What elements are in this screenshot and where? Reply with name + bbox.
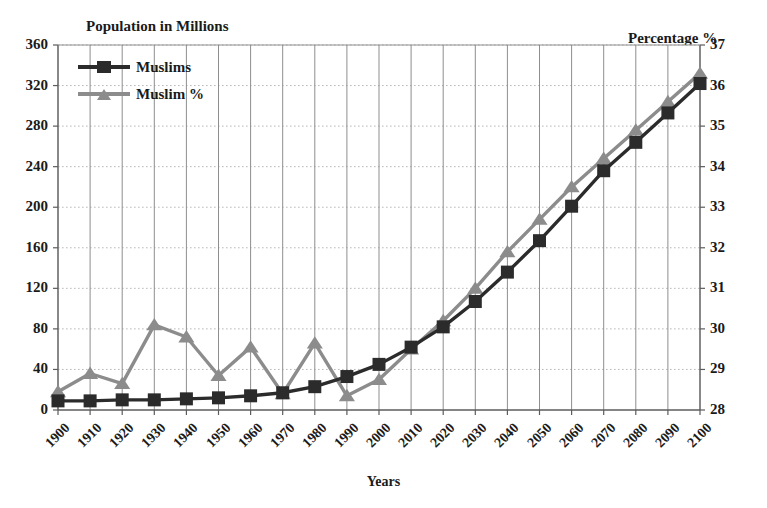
right-axis-tick-label: 33 bbox=[710, 199, 750, 214]
data-point-marker bbox=[565, 200, 578, 213]
chart-container: Population in Millions Percentage % 0408… bbox=[0, 0, 767, 508]
data-point-marker bbox=[212, 391, 225, 404]
legend-label: Muslims bbox=[136, 59, 191, 76]
data-point-marker bbox=[116, 393, 129, 406]
data-point-marker bbox=[629, 136, 642, 149]
data-point-marker bbox=[148, 393, 161, 406]
data-point-marker bbox=[308, 380, 321, 393]
left-axis-tick-label: 160 bbox=[8, 240, 48, 255]
right-axis-tick-label: 28 bbox=[710, 402, 750, 417]
right-axis-tick-label: 35 bbox=[710, 118, 750, 133]
x-axis-title: Years bbox=[0, 474, 767, 490]
data-point-marker bbox=[84, 394, 97, 407]
left-axis-tick-label: 240 bbox=[8, 159, 48, 174]
data-point-marker bbox=[340, 370, 353, 383]
left-axis-tick-label: 0 bbox=[8, 402, 48, 417]
data-point-marker bbox=[469, 295, 482, 308]
right-axis-tick-label: 36 bbox=[710, 78, 750, 93]
right-axis-tick-label: 30 bbox=[710, 321, 750, 336]
chart-legend: MuslimsMuslim % bbox=[78, 56, 210, 108]
left-axis-tick-label: 40 bbox=[8, 361, 48, 376]
data-point-marker bbox=[694, 77, 707, 90]
data-point-marker bbox=[405, 341, 418, 354]
left-axis-tick-label: 80 bbox=[8, 321, 48, 336]
data-point-marker bbox=[244, 389, 257, 402]
left-axis-tick-label: 320 bbox=[8, 78, 48, 93]
right-axis-tick-label: 37 bbox=[710, 37, 750, 52]
data-point-marker bbox=[373, 358, 386, 371]
legend-label: Muslim % bbox=[136, 86, 204, 103]
left-axis-tick-label: 120 bbox=[8, 280, 48, 295]
legend-square-marker-icon bbox=[78, 60, 130, 74]
data-point-marker bbox=[533, 234, 546, 247]
data-point-marker bbox=[52, 394, 65, 407]
right-axis-tick-label: 31 bbox=[710, 280, 750, 295]
legend-item-muslims[interactable]: Muslims bbox=[78, 56, 191, 78]
data-point-marker bbox=[180, 392, 193, 405]
left-axis-tick-label: 280 bbox=[8, 118, 48, 133]
right-axis-tick-label: 29 bbox=[710, 361, 750, 376]
data-point-marker bbox=[597, 164, 610, 177]
legend-item-muslim[interactable]: Muslim % bbox=[78, 83, 204, 105]
right-axis-tick-label: 32 bbox=[710, 240, 750, 255]
right-axis-tick-label: 34 bbox=[710, 159, 750, 174]
legend-triangle-marker-icon bbox=[78, 87, 130, 101]
data-point-marker bbox=[661, 106, 674, 119]
data-point-marker bbox=[501, 266, 514, 279]
left-axis-tick-label: 200 bbox=[8, 199, 48, 214]
data-point-marker bbox=[276, 386, 289, 399]
left-axis-tick-label: 360 bbox=[8, 37, 48, 52]
data-point-marker bbox=[437, 320, 450, 333]
